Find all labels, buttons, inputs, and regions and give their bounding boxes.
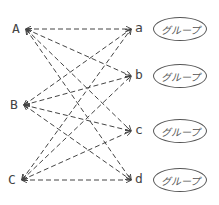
- group-ellipse: グループ: [153, 119, 207, 143]
- right-node-c: c: [135, 123, 143, 136]
- left-node-A: A: [12, 22, 20, 35]
- group-ellipse: グループ: [153, 168, 207, 192]
- edge-C-b: [22, 76, 131, 180]
- edge-C-c: [22, 131, 131, 180]
- right-node-d: d: [135, 172, 143, 185]
- left-node-C: C: [8, 173, 16, 186]
- left-node-B: B: [10, 98, 18, 111]
- right-node-a: a: [135, 21, 143, 34]
- group-ellipse: グループ: [153, 64, 207, 88]
- edge-A-c: [26, 29, 131, 131]
- edge-B-d: [24, 105, 131, 180]
- edge-B-a: [24, 29, 131, 105]
- right-node-b: b: [135, 68, 143, 81]
- group-ellipse: グループ: [153, 17, 207, 41]
- edge-A-d: [26, 29, 131, 180]
- edge-B-b: [24, 76, 131, 105]
